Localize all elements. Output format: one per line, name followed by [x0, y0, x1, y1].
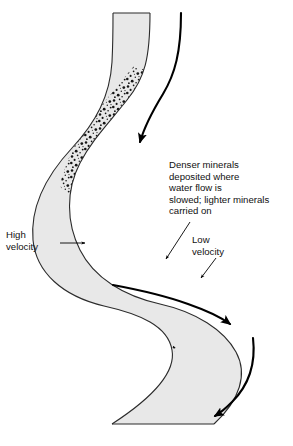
low-velocity-label: Low velocity — [192, 234, 224, 257]
meander-diagram: Denser minerals deposited where water fl… — [0, 0, 293, 446]
leader-line-deposition — [166, 222, 190, 259]
leader-line-low-velocity — [201, 258, 216, 278]
diagram-canvas: Denser minerals deposited where water fl… — [0, 0, 293, 446]
deposition-note: Denser minerals deposited where water fl… — [168, 159, 272, 216]
